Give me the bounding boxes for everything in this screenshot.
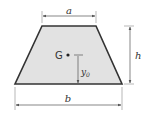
label-b: b xyxy=(65,93,71,104)
label-h: h xyxy=(135,50,141,61)
dimension-h: h xyxy=(124,26,141,84)
dimension-b: b xyxy=(15,87,122,110)
trapezoid-centroid-diagram: a h b G y0 xyxy=(0,0,144,116)
label-g: G xyxy=(55,50,63,61)
diagram-canvas: a h b G y0 xyxy=(0,0,144,116)
dimension-a: a xyxy=(42,5,96,23)
centroid-dot xyxy=(66,53,69,56)
label-a: a xyxy=(66,5,72,16)
